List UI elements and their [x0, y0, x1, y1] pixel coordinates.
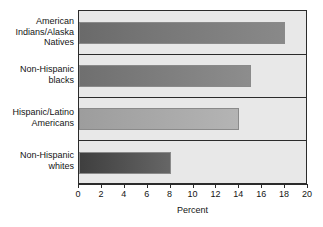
category-label-non-hispanic-blacks: Non-Hispanic blacks — [0, 64, 74, 85]
x-tick — [193, 184, 194, 188]
x-axis-title: Percent — [78, 205, 307, 215]
bar-band — [79, 97, 306, 140]
bar-non-hispanic-blacks — [79, 65, 251, 87]
bar-band — [79, 54, 306, 97]
x-tick-label: 12 — [205, 189, 225, 200]
category-label-non-hispanic-whites: Non-Hispanic whites — [0, 150, 74, 171]
x-tick — [215, 184, 216, 188]
x-tick-label: 4 — [114, 189, 134, 200]
x-tick — [170, 184, 171, 188]
x-tick — [238, 184, 239, 188]
bar-hispanic-latino-americans — [79, 108, 239, 130]
x-tick-label: 0 — [68, 189, 88, 200]
x-tick-label: 18 — [274, 189, 294, 200]
x-tick — [284, 184, 285, 188]
bar-non-hispanic-whites — [79, 152, 171, 174]
category-label-american-indians-alaska-natives: American Indians/Alaska Natives — [0, 16, 74, 48]
x-tick-label: 6 — [137, 189, 157, 200]
x-tick-label: 20 — [297, 189, 317, 200]
category-label-hispanic-latino-americans: Hispanic/Latino Americans — [0, 107, 74, 128]
x-tick-label: 10 — [183, 189, 203, 200]
bar-american-indians-alaska-natives — [79, 22, 285, 44]
x-tick — [307, 184, 308, 188]
x-tick — [147, 184, 148, 188]
x-tick — [261, 184, 262, 188]
x-tick — [124, 184, 125, 188]
x-tick — [101, 184, 102, 188]
x-tick-label: 14 — [228, 189, 248, 200]
x-tick — [78, 184, 79, 188]
x-tick-label: 16 — [251, 189, 271, 200]
horizontal-bar-chart: American Indians/Alaska Natives Non-Hisp… — [0, 0, 323, 227]
bar-band — [79, 140, 306, 185]
x-tick-label: 8 — [160, 189, 180, 200]
plot-area — [78, 10, 307, 184]
bar-band — [79, 11, 306, 54]
x-tick-label: 2 — [91, 189, 111, 200]
